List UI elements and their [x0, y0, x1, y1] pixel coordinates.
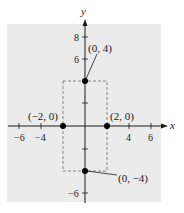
y-tick-label: 6 — [74, 54, 79, 65]
x-tick-label: 4 — [126, 132, 131, 143]
point-label-left: (−2, 0) — [28, 110, 58, 123]
point-0-4 — [82, 78, 88, 84]
y-tick-label: 8 — [74, 32, 79, 43]
point-2-0 — [104, 123, 110, 129]
y-axis-label: y — [80, 5, 86, 17]
point-0-neg4 — [82, 168, 88, 174]
point-label-top: (0, 4) — [88, 42, 112, 55]
y-axis-arrow-icon — [83, 19, 88, 26]
x-tick-label: 6 — [148, 132, 153, 143]
point-label-bottom: (0, −4) — [118, 172, 148, 185]
x-axis-arrow-icon — [161, 124, 168, 129]
y-tick-label: −6 — [68, 188, 79, 199]
x-tick-label: −6 — [14, 132, 25, 143]
x-axis-label: x — [169, 119, 175, 131]
point-label-right: (2, 0) — [110, 110, 134, 123]
chart: x y −6 −4 4 6 8 6 −6 (0, 4) (−2, 0) (2, … — [0, 0, 184, 213]
point-neg2-0 — [60, 123, 66, 129]
x-tick-label: −4 — [35, 132, 46, 143]
